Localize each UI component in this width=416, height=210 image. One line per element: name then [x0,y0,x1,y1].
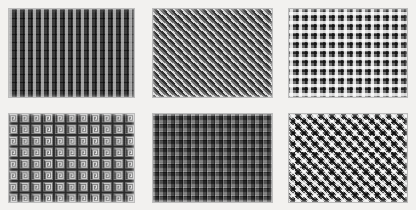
texture-panel-2[interactable] [152,8,273,98]
texture-swatch-greek-key-meander [8,113,135,203]
texture-panel-6[interactable] [288,113,408,203]
greek-key-svg [8,113,135,203]
texture-panel-5[interactable] [152,113,273,203]
texture-panel-3[interactable] [288,8,408,98]
texture-sample-figure [0,0,416,210]
texture-panel-1[interactable] [8,8,135,98]
texture-swatch-interlocking-cross-basketweave [288,113,408,203]
texture-swatch-cross-plus-lattice [288,8,408,98]
texture-swatch-diagonal-herringbone-weave [152,8,273,98]
texture-swatch-quilted-beveled-tiles [152,113,273,203]
texture-panel-4[interactable] [8,113,135,203]
texture-swatch-square-lattice-blocks [8,8,135,98]
